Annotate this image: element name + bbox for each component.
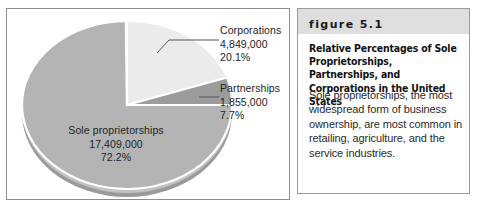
figure-caption-panel: figure 5.1 Relative Percentages of Sole …	[297, 8, 470, 194]
pie-label-corporations-name: Corporations	[220, 24, 281, 38]
pie-label-partnerships-value: 1,855,000	[220, 96, 280, 110]
figure-screenshot: Sole proprietorships 17,409,000 72.2% Co…	[0, 0, 477, 208]
pie-label-partnerships: Partnerships 1,855,000 7.7%	[220, 82, 280, 123]
pie-label-sole-proprietorships-value: 17,409,000	[40, 138, 192, 152]
pie-label-sole-proprietorships-name: Sole proprietorships	[40, 124, 192, 138]
pie-label-corporations: Corporations 4,849,000 20.1%	[220, 24, 281, 65]
figure-caption-body: Sole proprietorships, the most widesprea…	[309, 88, 465, 160]
pie-label-sole-proprietorships: Sole proprietorships 17,409,000 72.2%	[40, 124, 192, 165]
figure-number-label: figure 5.1	[309, 18, 383, 31]
pie-label-partnerships-percent: 7.7%	[220, 109, 280, 123]
pie-label-partnerships-name: Partnerships	[220, 82, 280, 96]
pie-label-sole-proprietorships-percent: 72.2%	[40, 151, 192, 165]
pie-label-corporations-value: 4,849,000	[220, 38, 281, 52]
pie-label-corporations-percent: 20.1%	[220, 51, 281, 65]
